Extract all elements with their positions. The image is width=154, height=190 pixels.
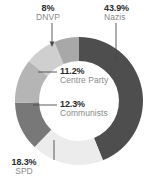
label-nazis-name: Nazis (104, 13, 154, 23)
label-communists: 12.3% Communists (60, 99, 108, 119)
label-centre-party-name: Centre Party (60, 76, 108, 86)
label-communists-name: Communists (60, 109, 108, 119)
label-nazis: 43.9% Nazis (104, 3, 154, 23)
label-spd: 18.3% SPD (2, 157, 46, 177)
label-dnvp: 8% DNVP (26, 3, 70, 23)
donut-chart: 8% DNVP 43.9% Nazis 11.2% Centre Party 1… (0, 0, 154, 190)
label-spd-name: SPD (2, 167, 46, 177)
label-centre-party: 11.2% Centre Party (60, 66, 108, 86)
label-dnvp-name: DNVP (26, 13, 70, 23)
